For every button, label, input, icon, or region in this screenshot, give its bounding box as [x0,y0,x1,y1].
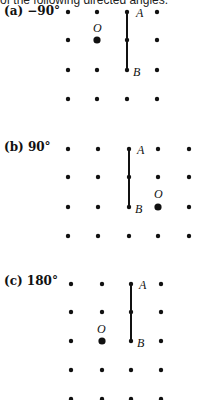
part-c-point-a-label: A [138,278,147,292]
part-c-point-b-label: B [137,336,145,350]
part-c-dots [69,282,163,400]
part-c-center-o-label: O [97,322,106,336]
part-c-dot-grid: A B O [0,0,223,400]
